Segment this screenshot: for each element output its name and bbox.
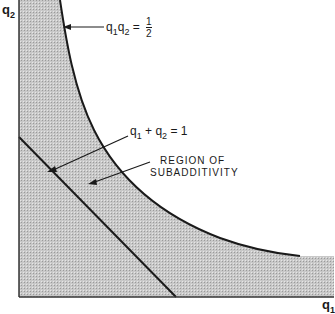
sum-var1: q [130,124,137,138]
fraction-numerator: 1 [146,16,152,28]
y-axis-label: q2 [2,2,15,17]
fraction-denominator: 2 [146,28,152,39]
sum-plus: + [145,124,152,138]
hyperbola-sub1: 1 [113,27,118,37]
hyperbola-fraction: 12 [146,16,152,39]
x-axis-sub: 1 [330,305,335,314]
shaded-region [19,0,334,297]
sum-sub2: 2 [162,131,167,141]
hyperbola-eq: = [133,20,140,34]
y-axis-sub: 2 [10,10,15,20]
sum-line-label: q1 + q2 = 1 [130,124,187,138]
sum-eq: = 1 [170,124,187,138]
region-label-line1: REGION OF [150,155,239,167]
y-axis-var: q [2,2,10,17]
hyperbola-sub2: 2 [124,27,129,37]
x-axis-label: q1 [322,297,335,312]
region-label-line2: SUBADDITIVITY [150,167,239,179]
region-label: REGION OF SUBADDITIVITY [150,155,239,179]
hyperbola-label: q1q2 = 12 [106,16,152,39]
x-axis-var: q [322,297,330,312]
hyperbola-var1: q [106,20,113,34]
sum-sub1: 1 [137,131,142,141]
